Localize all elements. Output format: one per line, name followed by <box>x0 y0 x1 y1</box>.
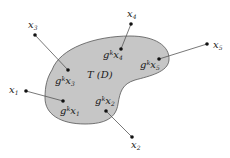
dot-x4 <box>129 22 133 26</box>
dot-x5 <box>205 42 209 46</box>
label-x5: x5 <box>213 39 223 51</box>
dot-x3 <box>33 33 37 37</box>
dot-gkx2 <box>104 109 108 113</box>
dot-gkx3 <box>66 68 70 72</box>
region-label: T (D) <box>87 69 113 80</box>
line-x3 <box>35 35 68 70</box>
mapping-diagram: T (D) x1 x2 x3 x4 x5 gkx1 gkx2 gkx3 gkx4… <box>0 0 230 158</box>
dot-gkx5 <box>157 57 161 61</box>
line-x2 <box>106 111 132 137</box>
dot-gkx1 <box>61 99 65 103</box>
dot-x1 <box>24 89 28 93</box>
label-x2: x2 <box>131 139 141 151</box>
label-x1: x1 <box>9 84 18 96</box>
label-x3: x3 <box>28 19 38 31</box>
label-x4: x4 <box>127 8 137 20</box>
dot-gkx4 <box>119 47 123 51</box>
